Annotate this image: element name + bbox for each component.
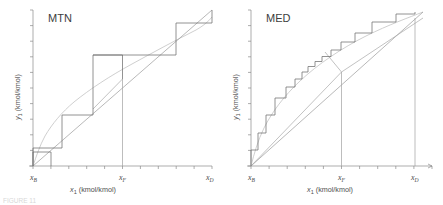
med-staircase [251, 12, 415, 166]
mtn-x-axis-units: (kmol/kmol) [77, 185, 116, 194]
med-xtick-label-f: xF [337, 173, 346, 183]
mtn-xtick-label-b: xB [29, 173, 38, 183]
med-y-ticks [248, 10, 251, 166]
med-y-axis-label: y1 (kmol/kmol) [231, 74, 241, 121]
mtn-panel-title: MTN [48, 12, 72, 24]
mtn-xtick-b-sub: B [34, 177, 38, 183]
mtn-xtick-label-f: xF [118, 173, 127, 183]
med-y-axis-units: (kmol/kmol) [231, 74, 240, 113]
med-xtick-label-d: xD [410, 173, 419, 183]
mtn-y-ticks [30, 10, 33, 166]
mtn-y-axis-label: y1 (kmol/kmol) [13, 74, 23, 121]
med-xtick-b-sub: B [252, 177, 256, 183]
mtn-xtick-label-d: xD [205, 173, 214, 183]
mtn-x-axis-label: x1 (kmol/kmol) [69, 185, 116, 195]
med-xtick-label-b: xB [247, 173, 256, 183]
mtn-xtick-d-sub: D [209, 177, 214, 183]
med-xtick-d-sub: D [414, 177, 419, 183]
mtn-x-ticks [33, 166, 212, 169]
med-x-axis-units: (kmol/kmol) [314, 185, 353, 194]
med-xtick-f-sub: F [341, 177, 346, 183]
med-rectifying-operating-line [342, 18, 424, 72]
med-x-ticks [251, 166, 432, 169]
panel-mtn: MTN y1 (kmol/kmol) x1 (kmol/kmol) xB xF … [13, 10, 214, 195]
figure-caption: FIGURE 11 [3, 197, 36, 205]
med-x-axis-label: x1 (kmol/kmol) [306, 185, 353, 195]
med-panel-title: MED [266, 12, 291, 24]
mtn-tie-line [93, 79, 123, 109]
mtn-y-axis-units: (kmol/kmol) [13, 74, 22, 113]
mccabe-thiele-figure: MTN y1 (kmol/kmol) x1 (kmol/kmol) xB xF … [0, 0, 443, 205]
mtn-xtick-f-sub: F [122, 177, 127, 183]
panel-med: MED y1 (kmol/kmol) x1 (kmol/kmol) xB xF … [231, 10, 432, 195]
med-stripping-operating-line [251, 72, 342, 166]
